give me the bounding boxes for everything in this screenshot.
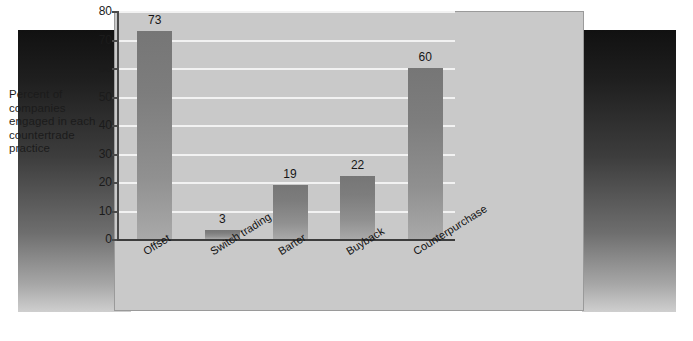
x-axis-category-labels: OffsetSwitch tradingBarterBuybackCounter… [117,243,587,311]
bar [408,68,443,239]
bar-value-label: 19 [270,167,310,181]
bar-value-label: 60 [405,50,445,64]
bar-value-label: 22 [338,158,378,172]
backdrop-panel-right [582,30,676,312]
y-axis-tick-label: 80 [84,4,112,18]
bar [273,185,308,239]
y-axis-tick-label: 70 [84,33,112,47]
plot-area: 733192260 [117,11,455,239]
bar [137,31,172,239]
bar-value-label: 73 [135,13,175,27]
y-axis-tick-label: 10 [84,204,112,218]
y-axis-tick-label: 60 [84,61,112,75]
y-axis-tick-labels: 01020304050607080 [84,11,112,239]
y-axis-tick-label: 20 [84,175,112,189]
bar-series: 733192260 [117,11,455,239]
y-axis-tick-label: 50 [84,90,112,104]
bar-value-label: 3 [202,212,242,226]
y-axis-tick-label: 0 [84,232,112,246]
y-axis-tick-label: 40 [84,118,112,132]
y-axis-tick-label: 30 [84,147,112,161]
